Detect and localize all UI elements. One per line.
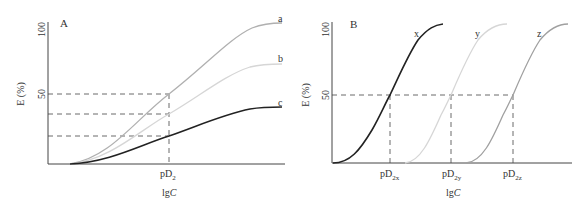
ytick-100-b: 100 bbox=[320, 22, 331, 37]
ytick-50-b: 50 bbox=[320, 90, 331, 100]
curve-z bbox=[466, 24, 568, 163]
label-c: c bbox=[278, 97, 283, 108]
xtick-pd2y: pD2y bbox=[442, 168, 462, 182]
xlabel-a: lgC bbox=[162, 187, 177, 198]
curve-a bbox=[70, 23, 282, 164]
ytick-100-a: 100 bbox=[36, 22, 47, 37]
label-x: x bbox=[414, 28, 419, 39]
panel-label-b: B bbox=[350, 18, 357, 30]
ylabel-a: E (%) bbox=[15, 82, 27, 106]
curve-x bbox=[333, 24, 443, 163]
label-a: a bbox=[278, 13, 283, 24]
curve-b bbox=[70, 64, 282, 164]
label-y: y bbox=[475, 28, 480, 39]
xlabel-b: lgC bbox=[446, 187, 461, 198]
xtick-pd2: pD2 bbox=[160, 168, 176, 182]
curve-y bbox=[405, 24, 507, 163]
label-b: b bbox=[278, 53, 283, 64]
panel-b: B 100 50 E (%) x y z pD2x pD2y pD2z lgC bbox=[300, 18, 572, 198]
ylabel-b: E (%) bbox=[300, 83, 312, 107]
ytick-50-a: 50 bbox=[36, 89, 47, 99]
xtick-pd2z: pD2z bbox=[503, 168, 522, 182]
xtick-pd2x: pD2x bbox=[380, 168, 400, 182]
panel-a: A 100 50 E (%) a b c pD2 lgC bbox=[15, 13, 285, 198]
label-z: z bbox=[537, 28, 542, 39]
figure: A 100 50 E (%) a b c pD2 lgC B 100 50 E … bbox=[0, 0, 583, 211]
panel-label-a: A bbox=[60, 17, 68, 29]
